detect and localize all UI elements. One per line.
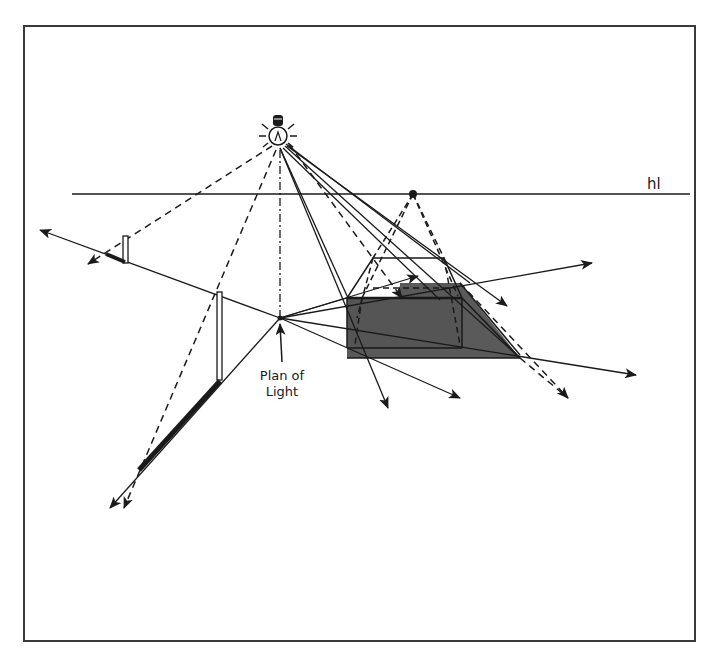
light-rays [280,144,520,408]
tall-post-shadow [139,381,220,470]
plan-of-light-point [278,316,283,321]
small-post-shadow [106,254,125,262]
plan-of-light-pointer [280,324,282,362]
light-bulb-icon [259,115,297,147]
small-vertical-post [123,236,128,263]
shadow-diagram [0,0,719,658]
plan-of-light-label-line2: Light [252,384,312,400]
horizon-label: hl [647,176,661,192]
tall-vertical-post [217,292,222,380]
plan-of-light-label: Plan of Light [252,368,312,400]
plan-of-light-label-line1: Plan of [252,368,312,384]
plan-of-light-rays [40,230,636,508]
